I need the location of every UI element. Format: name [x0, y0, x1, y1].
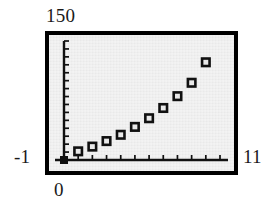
- data-point-marker: [103, 137, 111, 145]
- scatter-plot-svg: [49, 35, 234, 171]
- data-point-marker: [188, 79, 196, 87]
- x-axis-min-label: 0: [54, 180, 64, 199]
- data-point-marker: [202, 59, 210, 67]
- data-point-marker: [117, 131, 125, 139]
- data-point-marker: [89, 143, 97, 151]
- data-point-marker: [160, 104, 168, 112]
- y-axis-max-label: 150: [46, 6, 75, 25]
- x-axis-max-label: 11: [243, 147, 262, 166]
- data-point-marker: [74, 148, 82, 156]
- data-point-marker: [174, 92, 182, 100]
- data-point-marker: [145, 114, 153, 122]
- origin-marker: [61, 157, 68, 164]
- plot-area: [49, 35, 234, 171]
- y-axis-min-label: -1: [14, 147, 30, 166]
- plot-frame: [45, 31, 238, 175]
- data-points-group: [61, 59, 210, 164]
- chart-figure: 150 -1 0 11: [0, 0, 275, 214]
- data-point-marker: [131, 123, 139, 131]
